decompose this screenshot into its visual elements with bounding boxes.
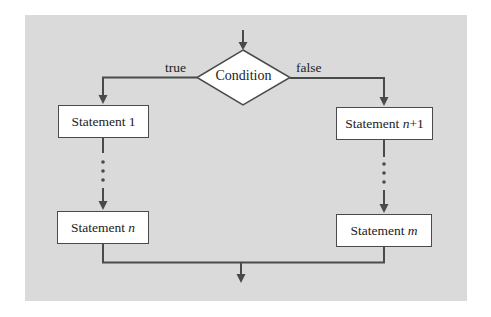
- left-ellipsis-icon: [101, 160, 105, 182]
- arrowhead-icon: [380, 204, 389, 213]
- statement-1-box: Statement 1: [58, 105, 149, 138]
- statement-n-box: Statement n: [57, 211, 149, 244]
- false-label: false: [296, 60, 321, 76]
- arrowhead-icon: [99, 95, 108, 104]
- right-ellipsis-icon: [382, 162, 386, 184]
- statement-1-prefix: Statement: [71, 114, 125, 130]
- arrowhead-icon: [239, 42, 248, 50]
- arrowhead-icon: [99, 201, 108, 210]
- statement-m-suffix: m: [408, 223, 418, 239]
- arrowhead-icon: [380, 97, 389, 106]
- arrowhead-icon: [237, 274, 246, 283]
- statement-1-suffix: 1: [129, 114, 136, 130]
- false-branch-line: [290, 78, 384, 98]
- statement-n-prefix: Statement: [71, 220, 125, 236]
- statement-m-prefix: Statement: [350, 223, 404, 239]
- statement-n-plus-1-prefix: Statement: [345, 116, 399, 132]
- statement-n-plus-1-rest: +1: [409, 116, 423, 132]
- flowchart-connectors: [0, 0, 491, 317]
- statement-m-box: Statement m: [336, 214, 432, 247]
- statement-n-suffix: n: [128, 220, 135, 236]
- true-label: true: [165, 60, 186, 76]
- statement-n-plus-1-var: n: [403, 116, 410, 132]
- condition-label: Condition: [197, 68, 290, 84]
- true-branch-line: [103, 78, 197, 97]
- statement-n-plus-1-box: Statement n+1: [336, 107, 433, 140]
